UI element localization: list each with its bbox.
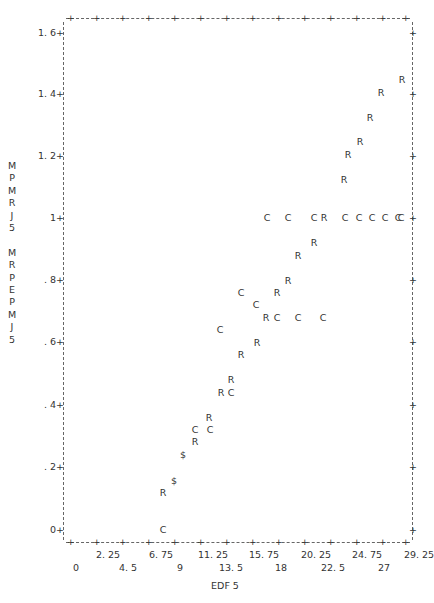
plot-marker-r: R [378,87,385,99]
y-axis-label-char: M [6,247,18,259]
x-axis-plus-tick: + [67,536,75,548]
x-axis-plus-tick: + [301,12,309,24]
x-tick-label-upper: 11. 25 [198,549,228,561]
x-axis-plus-tick: + [402,12,410,24]
plot-marker-r: R [218,387,225,399]
right-axis-plus: + [409,524,417,536]
plot-marker-c: C [160,524,167,536]
y-tick-label: 1+ [24,212,64,224]
y-tick-label: 0+ [24,524,64,536]
plot-marker-overlap: $ [180,449,186,461]
x-axis-plus-tick: + [197,12,205,24]
plot-marker-c: C [311,212,318,224]
x-axis-plus-tick: + [249,12,257,24]
plot-marker-c: C [295,312,302,324]
plot-marker-overlap: $ [171,475,177,487]
y-axis-label-char: M [6,309,18,321]
y-axis-label-char: P [6,172,18,184]
plot-marker-r: R [254,337,261,349]
right-axis-plus: + [409,150,417,162]
plot-marker-r: R [367,112,374,124]
x-tick-label-lower: 22. 5 [321,562,345,574]
plot-marker-c: C [342,212,349,224]
plot-marker-r: R [160,487,167,499]
plot-marker-r: R [345,149,352,161]
plot-marker-r: R [263,312,270,324]
plot-marker-r: R [399,74,406,86]
plot-marker-r: R [228,374,235,386]
x-axis-plus-tick: + [249,536,257,548]
x-axis-label: EDF 5 [211,580,239,592]
plot-marker-r: R [321,212,328,224]
x-tick-label-lower: 13. 5 [219,562,243,574]
y-axis-label-char: E [6,284,18,296]
y-axis-label-char: 5 [6,334,18,346]
y-axis-label-char: R [6,259,18,271]
x-axis-plus-tick: + [275,12,283,24]
x-tick-label-lower: 9 [177,562,183,574]
y-axis-label-char [6,234,18,246]
plot-marker-c: C [285,212,292,224]
plot-marker-c: C [238,287,245,299]
plot-marker-c: C [369,212,376,224]
plot-marker-c: C [253,299,260,311]
x-axis-plus-tick: + [327,536,335,548]
plot-marker-r: R [357,136,364,148]
x-tick-label-upper: 29. 25 [404,549,434,561]
y-tick-label: 1. 2+ [24,150,64,162]
x-tick-label-lower: 18 [275,562,287,574]
right-axis-plus: + [409,461,417,473]
right-axis-plus: + [409,88,417,100]
plot-marker-r: R [192,436,199,448]
y-axis-label-char: P [6,272,18,284]
y-axis-label: MPMRJ5 MRPEPMJ5 [6,160,18,346]
right-axis-plus: + [409,212,417,224]
x-tick-label-lower: 4. 5 [119,562,137,574]
y-axis-label-char: 5 [6,222,18,234]
y-axis-label-char: J [6,321,18,333]
x-axis-plus-tick: + [145,536,153,548]
plot-marker-c: C [217,324,224,336]
y-tick-label: . 4+ [24,399,64,411]
x-axis-plus-tick: + [93,536,101,548]
y-tick-label: 1. 4+ [24,88,64,100]
x-axis-plus-tick: + [119,536,127,548]
plot-marker-r: R [341,174,348,186]
x-axis-plus-tick: + [197,536,205,548]
x-axis-plus-tick: + [301,536,309,548]
plot-marker-r: R [238,349,245,361]
plot-marker-r: R [206,412,213,424]
right-axis-plus: + [409,274,417,286]
right-axis-plus: + [409,336,417,348]
x-tick-label-upper: 20. 25 [301,549,331,561]
x-axis-plus-tick: + [402,536,410,548]
x-axis-plus-tick: + [171,536,179,548]
x-axis-plus-tick: + [145,12,153,24]
x-tick-label-lower: 27 [378,562,390,574]
y-tick-label: . 6+ [24,336,64,348]
plot-marker-c: C [228,387,235,399]
x-axis-plus-tick: + [223,12,231,24]
plot-marker-c: C [274,312,281,324]
y-axis-label-char: M [6,185,18,197]
plot-marker-c: C [398,212,405,224]
plot-marker-c: C [382,212,389,224]
x-tick-label-upper: 6. 75 [149,549,173,561]
x-axis-plus-tick: + [353,12,361,24]
plot-marker-c: C [264,212,271,224]
x-tick-label-upper: 2. 25 [96,549,120,561]
x-axis-plus-tick: + [379,536,387,548]
y-axis-label-char: J [6,210,18,222]
plot-marker-c: C [356,212,363,224]
x-axis-plus-tick: + [119,12,127,24]
x-tick-label-lower: 0 [73,562,79,574]
y-tick-label: . 8+ [24,274,64,286]
plot-marker-r: R [285,275,292,287]
plot-marker-r: R [274,287,281,299]
plot-marker-c: C [207,424,214,436]
x-axis-plus-tick: + [353,536,361,548]
plot-marker-c: C [320,312,327,324]
x-axis-plus-tick: + [93,12,101,24]
right-axis-plus: + [409,399,417,411]
x-axis-plus-tick: + [171,12,179,24]
